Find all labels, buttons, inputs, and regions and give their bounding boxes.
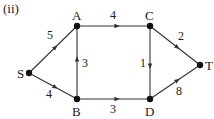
node-label-s: S — [17, 67, 24, 80]
edge-s-b — [29, 73, 77, 99]
figure-label: (ii) — [3, 2, 19, 15]
node-label-t: T — [205, 59, 213, 72]
edge-weight-s-a: 5 — [47, 29, 53, 42]
edge-weight-c-d: 1 — [140, 57, 146, 70]
edge-weight-d-t: 8 — [176, 85, 182, 98]
node-b — [74, 96, 80, 102]
node-label-c: C — [145, 9, 154, 22]
edge-weight-b-a: 3 — [82, 57, 88, 70]
network-diagram — [0, 0, 214, 119]
edge-s-a — [29, 26, 77, 73]
edge-weight-a-c: 4 — [110, 9, 116, 22]
edge-weight-b-d: 3 — [110, 103, 116, 116]
node-s — [26, 70, 32, 76]
edge-c-t — [150, 26, 200, 65]
node-label-b: B — [72, 105, 81, 118]
node-label-a: A — [72, 9, 81, 22]
edge-weight-c-t: 2 — [178, 30, 184, 43]
node-d — [147, 96, 153, 102]
edge-weight-s-b: 4 — [46, 88, 52, 101]
edge-d-t — [150, 65, 200, 99]
node-t — [197, 62, 203, 68]
node-label-d: D — [145, 105, 154, 118]
node-a — [74, 23, 80, 29]
node-c — [147, 23, 153, 29]
